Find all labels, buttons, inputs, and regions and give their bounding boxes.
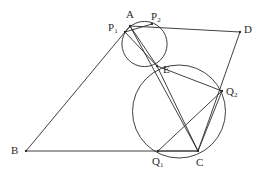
vertex-point-b — [25, 150, 27, 152]
segment-a-b — [26, 26, 130, 151]
segment-a-d — [130, 26, 240, 32]
circle-through-A-P1-P2-E — [122, 21, 167, 66]
point-label-base: Q — [152, 155, 160, 167]
point-label-q2: Q2 — [226, 86, 237, 97]
point-label-d: D — [244, 24, 252, 35]
point-label-e: E — [163, 64, 170, 75]
point-label-base: A — [126, 8, 134, 20]
point-label-q1: Q1 — [152, 156, 163, 167]
vertex-point-d — [239, 31, 241, 33]
vertex-point-p1 — [124, 31, 126, 33]
vertex-point-e — [156, 65, 158, 67]
point-label-subscript: 2 — [157, 16, 161, 24]
geometry-canvas — [0, 0, 262, 184]
point-label-c: C — [196, 157, 203, 168]
point-label-base: C — [196, 156, 203, 168]
point-label-subscript: 1 — [114, 27, 118, 35]
points-group — [25, 23, 241, 152]
chord-a-e — [130, 26, 157, 66]
diagonal-a-c — [130, 26, 198, 151]
vertex-point-p2 — [151, 23, 153, 25]
vertex-point-q2 — [221, 90, 223, 92]
vertex-point-c — [197, 150, 199, 152]
point-label-subscript: 1 — [160, 161, 164, 169]
point-label-p1: P1 — [108, 22, 118, 33]
segments-group — [26, 24, 240, 151]
vertex-point-q1 — [157, 150, 159, 152]
point-label-subscript: 2 — [234, 91, 238, 99]
chord-q2-c — [198, 91, 222, 151]
vertex-point-a — [129, 25, 131, 27]
point-label-base: Q — [226, 85, 234, 97]
geometry-figure: ABCDEP1P2Q1Q2 — [0, 0, 262, 184]
point-label-base: D — [244, 23, 252, 35]
point-label-base: B — [11, 144, 18, 156]
segment-e-c — [157, 66, 198, 151]
point-label-base: E — [163, 63, 170, 75]
point-label-p2: P2 — [151, 11, 161, 22]
point-label-a: A — [126, 9, 134, 20]
point-label-b: B — [11, 145, 18, 156]
circles-group — [122, 21, 226, 158]
chord-q1-q2 — [158, 91, 222, 151]
